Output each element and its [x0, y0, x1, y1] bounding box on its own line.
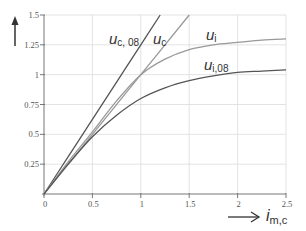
label-u-c: uc [153, 30, 166, 48]
x-tick-label: 0.5 [88, 199, 99, 209]
y-tick-label: 0.75 [24, 100, 39, 110]
y-tick-label: 1.25 [24, 40, 39, 50]
x-axis-label: im,c [266, 207, 288, 226]
y-tick-label: 0.25 [24, 159, 39, 169]
x-tick-label: 1 [140, 199, 144, 209]
label-u-c-08: uc, 08 [109, 30, 139, 48]
y-tick-label: 1 [35, 70, 39, 80]
x-tick-label: 2 [236, 199, 240, 209]
chart: 00.511.522.50.250.50.7511.251.5 uc, 08 u… [0, 0, 306, 231]
series-u-i-08-line [44, 70, 286, 194]
label-u-i: ui [206, 26, 217, 44]
label-u-i-08: ui,08 [204, 56, 229, 74]
y-arrow-icon [12, 16, 19, 46]
y-tick-label: 1.5 [28, 10, 39, 20]
y-tick-label: 0.5 [28, 129, 39, 139]
x-tick-label: 1.5 [185, 199, 196, 209]
x-tick-label: 0 [43, 199, 47, 209]
series-u-i-line [44, 39, 286, 194]
x-tick-label: 2.5 [282, 199, 293, 209]
x-arrow-icon [228, 212, 259, 222]
